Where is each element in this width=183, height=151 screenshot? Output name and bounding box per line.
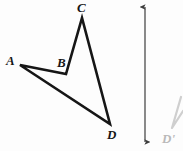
- geometry-canvas: [0, 0, 183, 151]
- quadrilateral-abcd: [20, 18, 110, 124]
- vertex-label-d-prime: D': [162, 132, 175, 145]
- reflected-figure-partial: [172, 97, 183, 128]
- vertex-label-a: A: [6, 54, 15, 67]
- vertex-label-b: B: [57, 56, 66, 69]
- vertex-label-d: D: [107, 128, 116, 141]
- vertex-label-c: C: [77, 1, 86, 14]
- geometry-figure: A B C D D': [0, 0, 183, 151]
